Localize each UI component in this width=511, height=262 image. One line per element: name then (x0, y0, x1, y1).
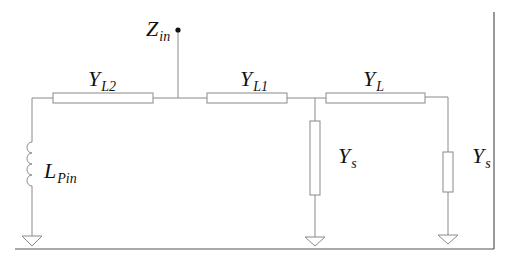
label-ys-right-main: Y (472, 143, 484, 168)
stub-ys-mid (310, 121, 320, 195)
zin-terminal-dot-icon (175, 27, 180, 32)
label-yl1: YL1 (240, 68, 268, 94)
label-yl2: YL2 (88, 68, 116, 94)
tline-yl (326, 93, 425, 103)
label-yl-sub: L (376, 79, 384, 94)
label-ys-right-sub: s (485, 156, 490, 171)
label-zin-sub: in (159, 29, 170, 44)
stub-ys-right (443, 152, 453, 192)
circuit-diagram (0, 0, 511, 262)
label-lpin-main: L (44, 158, 56, 183)
ground-icon-right (438, 235, 458, 244)
label-lpin-sub: Pin (57, 171, 76, 186)
tline-yl2 (53, 93, 153, 103)
label-yl2-main: Y (88, 66, 100, 91)
label-yl2-sub: L2 (101, 79, 116, 94)
label-zin: Zin (146, 18, 170, 44)
label-yl1-main: Y (240, 66, 252, 91)
wire-right-top (425, 97, 448, 152)
label-yl-main: Y (363, 66, 375, 91)
ground-icon-mid (305, 237, 325, 246)
label-ys-mid-main: Y (338, 143, 350, 168)
label-lpin: LPin (44, 160, 77, 186)
label-ys-mid-sub: s (351, 156, 356, 171)
frame (15, 12, 494, 249)
label-yl1-sub: L1 (253, 79, 268, 94)
wire-left-top (32, 98, 53, 142)
label-ys-mid: Ys (338, 145, 357, 171)
ground-icon-left (22, 236, 42, 246)
tline-yl1 (207, 93, 287, 103)
label-ys-right: Ys (472, 145, 491, 171)
label-zin-main: Z (146, 16, 158, 41)
label-yl: YL (363, 68, 384, 94)
inductor-coil-icon (27, 142, 32, 186)
